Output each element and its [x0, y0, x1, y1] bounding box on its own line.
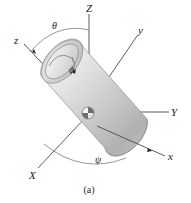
figure-caption: (a) — [83, 184, 94, 196]
axis-X-label: X — [28, 169, 37, 181]
center-of-mass-marker — [82, 107, 94, 119]
euler-angle-cylinder-figure: Z y Y X z θ — [0, 0, 191, 203]
angle-phi-label: ϕ — [69, 64, 74, 75]
axis-y-label: y — [137, 24, 143, 36]
axis-z-label: z — [13, 34, 19, 46]
angle-theta-label: θ — [52, 20, 57, 31]
axis-X: X — [28, 118, 85, 181]
axis-Z-label: Z — [86, 2, 93, 14]
cylinder-body: ϕ — [33, 32, 147, 156]
angle-psi-label: ψ — [95, 154, 102, 165]
axis-x-label: x — [167, 150, 173, 162]
axis-Y-label: Y — [171, 106, 179, 118]
figure-container: Z y Y X z θ — [0, 0, 191, 203]
